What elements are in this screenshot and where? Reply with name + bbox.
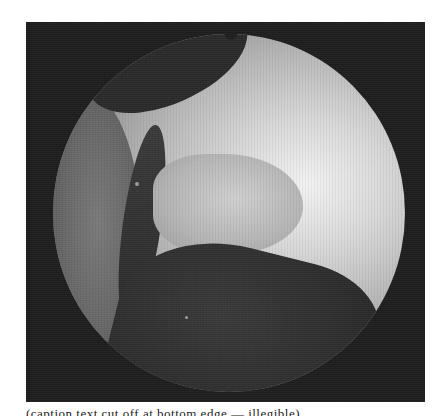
- instrument-notch: [224, 22, 238, 40]
- figure-caption: (caption text cut off at bottom edge — i…: [26, 405, 426, 416]
- endoscopic-view: [53, 34, 405, 392]
- central-tissue-fold: [153, 154, 303, 254]
- tissue-highlight-speck: [135, 182, 139, 186]
- tissue-highlight-speck: [185, 316, 188, 319]
- figure-frame: [26, 22, 425, 402]
